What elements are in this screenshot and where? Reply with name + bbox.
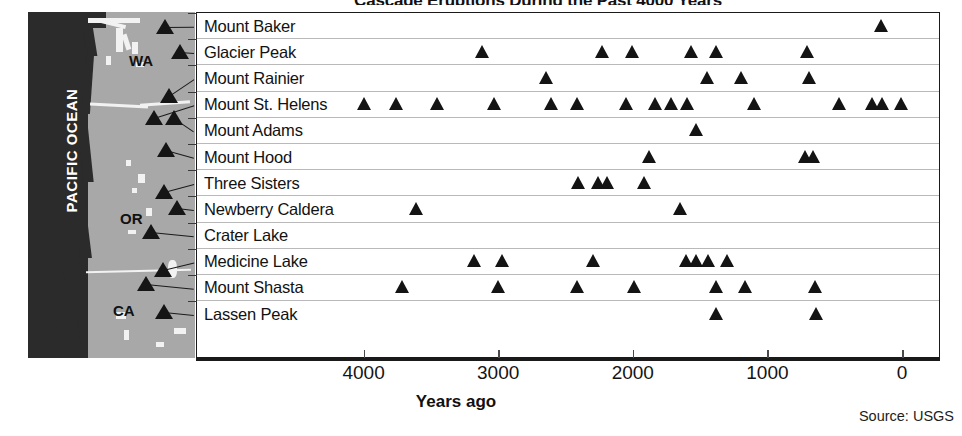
eruption-marker [806, 150, 820, 163]
eruption-marker [467, 254, 481, 267]
eruption-marker [664, 97, 678, 110]
lake-shape [126, 160, 131, 166]
eruption-marker [738, 280, 752, 293]
row-tick [188, 249, 197, 250]
eruption-marker [600, 176, 614, 189]
x-axis-tick [633, 350, 635, 358]
volcano-name-label: Mount Rainier [204, 68, 304, 87]
map-volcano-mount-rainier-icon [160, 88, 178, 103]
x-axis-title: Years ago [196, 392, 716, 412]
eruption-marker [648, 97, 662, 110]
ocean-label: PACIFIC OCEAN [63, 61, 80, 241]
x-axis-tick-label: 3000 [477, 362, 519, 384]
map-volcano-medicine-lake-icon [154, 262, 172, 277]
eruption-marker [874, 19, 888, 32]
map-volcano-mount-baker-icon [156, 19, 174, 34]
volcano-name-label: Three Sisters [204, 173, 300, 192]
waterway [106, 56, 111, 65]
eruption-marker [680, 97, 694, 110]
map-volcano-lassen-peak-icon [155, 304, 173, 319]
timeline-row: Glacier Peak [197, 39, 939, 65]
row-tick [188, 39, 197, 40]
eruption-marker [625, 45, 639, 58]
timeline-row: Newberry Caldera [197, 196, 939, 222]
eruption-timeline-chart: Mount BakerGlacier PeakMount RainierMoun… [196, 12, 940, 358]
x-axis-tick [498, 350, 500, 358]
map-volcano-three-sisters-icon [155, 184, 173, 199]
eruption-marker [832, 97, 846, 110]
x-axis-tick [902, 350, 904, 358]
timeline-row: Medicine Lake [197, 249, 939, 275]
eruption-marker [570, 280, 584, 293]
eruption-marker [709, 307, 723, 320]
row-tick [188, 196, 197, 197]
eruption-marker [544, 97, 558, 110]
lake-shape [138, 174, 145, 183]
map-volcano-glacier-peak-icon [171, 44, 189, 59]
map-volcano-mount-adams-icon [165, 110, 183, 125]
eruption-marker [357, 97, 371, 110]
timeline-row: Three Sisters [197, 170, 939, 196]
timeline-row: Mount Rainier [197, 65, 939, 91]
source-credit: Source: USGS [859, 408, 954, 424]
eruption-marker [875, 97, 889, 110]
eruption-marker [673, 202, 687, 215]
map-volcano-mount-shasta-icon [137, 276, 155, 291]
volcano-name-label: Glacier Peak [204, 42, 296, 61]
eruption-marker [586, 254, 600, 267]
row-tick [188, 92, 197, 93]
row-tick [188, 223, 197, 224]
lake-shape [174, 328, 186, 334]
timeline-row: Mount St. Helens [197, 92, 939, 118]
row-tick [188, 144, 197, 145]
lake-shape [146, 208, 152, 216]
eruption-marker [808, 280, 822, 293]
eruption-marker [430, 97, 444, 110]
eruption-marker [627, 280, 641, 293]
eruption-marker [570, 97, 584, 110]
eruption-marker [642, 150, 656, 163]
infographic-root: Cascade Eruptions During the Past 4000 Y… [0, 0, 962, 436]
map-volcano-mount-hood-icon [157, 142, 175, 157]
row-tick [188, 301, 197, 302]
eruption-marker [802, 71, 816, 84]
volcano-name-label: Mount Adams [204, 121, 303, 140]
row-tick [188, 118, 197, 119]
lake-shape [128, 230, 136, 234]
volcano-name-label: Crater Lake [204, 226, 288, 245]
eruption-marker [475, 45, 489, 58]
timeline-row: Mount Baker [197, 13, 939, 39]
volcano-name-label: Mount St. Helens [204, 95, 327, 114]
page-title: Cascade Eruptions During the Past 4000 Y… [228, 0, 848, 5]
x-axis-tick-label: 4000 [342, 362, 384, 384]
map-volcano-mount-st-helens-icon [145, 110, 163, 125]
eruption-marker [491, 280, 505, 293]
eruption-marker [701, 254, 715, 267]
coast-shape [56, 318, 82, 358]
map-volcano-crater-lake-icon [142, 224, 160, 239]
eruption-marker [595, 45, 609, 58]
waterway [122, 34, 132, 51]
timeline-row: Mount Hood [197, 144, 939, 170]
eruption-marker [734, 71, 748, 84]
x-axis [196, 358, 940, 361]
eruption-marker [720, 254, 734, 267]
volcano-name-label: Medicine Lake [204, 252, 308, 271]
timeline-row: Lassen Peak [197, 301, 939, 327]
eruption-marker [747, 97, 761, 110]
eruption-marker [809, 307, 823, 320]
state-label-wa: WA [129, 52, 153, 69]
timeline-row: Crater Lake [197, 223, 939, 249]
eruption-marker [637, 176, 651, 189]
volcano-name-label: Mount Baker [204, 16, 295, 35]
lake-shape [124, 330, 129, 340]
eruption-marker [539, 71, 553, 84]
eruption-marker [495, 254, 509, 267]
eruption-marker [894, 97, 908, 110]
eruption-marker [709, 280, 723, 293]
volcano-name-label: Newberry Caldera [204, 199, 334, 218]
eruption-marker [800, 45, 814, 58]
timeline-row: Mount Adams [197, 118, 939, 144]
waterway [116, 28, 123, 52]
eruption-marker [571, 176, 585, 189]
